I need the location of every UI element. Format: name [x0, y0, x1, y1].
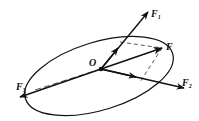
origin-label: O [89, 57, 96, 68]
ellipse-boundary [15, 21, 182, 121]
vector-f2-mid-arrow [101, 69, 136, 77]
label-f3: F3 [15, 81, 26, 93]
label-f1: F1 [150, 8, 161, 20]
force-diagram: O F1 F F2 F3 [0, 0, 199, 121]
origin-point [99, 67, 104, 72]
dashed-line-parallelogram-top [120, 42, 162, 48]
dashed-line-parallelogram-side [140, 48, 162, 82]
vector-f3-arrow [20, 69, 101, 97]
label-f2: F2 [181, 77, 192, 89]
label-f: F [165, 41, 173, 52]
